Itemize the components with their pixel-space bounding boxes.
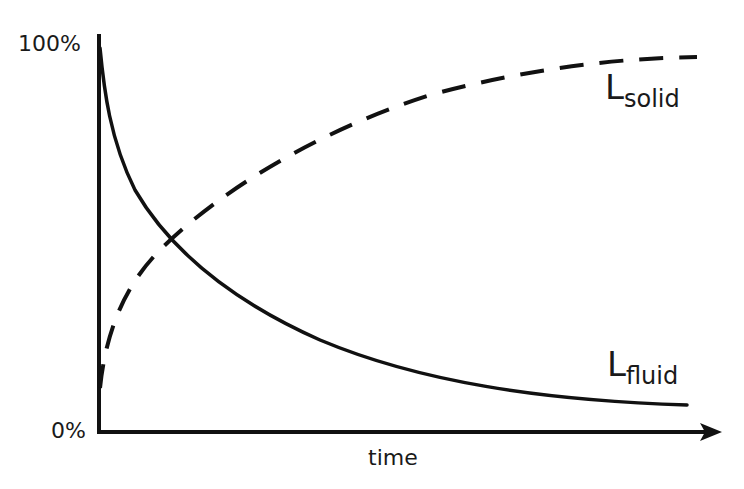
l-solid-label-main: L [605, 67, 624, 107]
x-axis-label: time [368, 447, 418, 469]
y-tick-0: 0% [51, 420, 86, 442]
l-solid-label: Lsolid [605, 70, 680, 111]
l-solid-label-sub: solid [624, 85, 680, 113]
l-fluid-label-sub: fluid [626, 362, 678, 390]
y-tick-100: 100% [18, 33, 81, 55]
l-fluid-label-main: L [607, 344, 626, 384]
l-fluid-label: Lfluid [607, 347, 678, 388]
l-fluid-curve [100, 48, 687, 405]
